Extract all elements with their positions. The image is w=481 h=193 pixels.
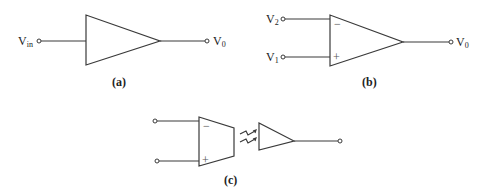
noninverting-input-terminal [281,55,285,59]
amplifier-triangle [86,15,160,65]
plus-sign: + [333,50,340,64]
caption-b: (b) [362,75,377,89]
v2-label: V2 [266,12,279,27]
panel-a: Vin V0 (a) [18,15,226,89]
op-amp-triangle [330,15,403,66]
caption-c: (c) [224,173,237,187]
plus-sign: + [202,153,209,167]
amplifier-diagram: Vin V0 (a) V2 V1 − + V0 (b) − + [0,0,481,193]
input-terminal [37,39,41,43]
v0-label: V0 [456,35,469,50]
receiver-triangle [259,123,294,150]
v0-label: V0 [213,34,226,49]
inverting-input-terminal [281,17,285,21]
minus-sign: − [203,119,210,133]
output-terminal [338,139,342,143]
minus-sign: − [334,17,341,31]
caption-a: (a) [112,75,126,89]
v1-label: V1 [266,50,279,65]
inverting-input-terminal [153,119,157,123]
lightning-coupling-icon [240,130,256,143]
output-terminal [449,40,453,44]
panel-c: − + (c) [153,117,342,187]
output-terminal [205,39,209,43]
panel-b: V2 V1 − + V0 (b) [266,12,469,89]
noninverting-input-terminal [155,159,159,163]
vin-label: Vin [18,34,33,49]
